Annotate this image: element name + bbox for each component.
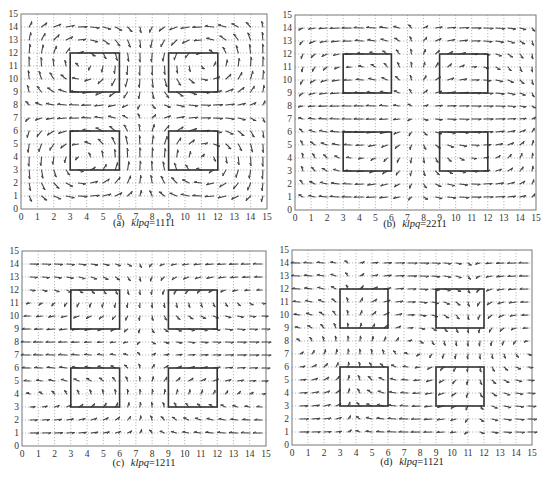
obstacle-rectangle	[168, 368, 217, 407]
vector-arrow	[319, 196, 327, 197]
arrow-head	[129, 162, 130, 164]
arrow-head	[513, 94, 515, 95]
arrow-head	[76, 63, 78, 64]
arrow-head	[218, 330, 220, 331]
y-tick-label: 8	[13, 100, 18, 110]
x-tick-label: 3	[68, 212, 73, 222]
y-tick-label: 3	[14, 402, 19, 412]
arrow-head	[45, 291, 47, 292]
arrow-head	[449, 277, 451, 278]
arrow-head	[459, 264, 461, 265]
arrow-head	[332, 143, 334, 144]
x-tick-label: 1	[306, 448, 311, 458]
x-tick-label: 5	[373, 213, 378, 223]
arrow-head	[153, 136, 154, 138]
arrow-head	[264, 86, 265, 88]
x-tick-label: 1	[309, 213, 314, 223]
arrow-head	[246, 23, 248, 24]
arrow-head	[36, 379, 38, 380]
arrow-head	[190, 390, 191, 392]
x-tick-label: 0	[19, 212, 24, 222]
arrow-head	[85, 366, 87, 367]
arrow-head	[424, 316, 426, 317]
arrow-head	[151, 292, 152, 294]
obstacle-rectangle	[71, 368, 120, 407]
arrow-head	[349, 376, 350, 378]
arrow-head	[509, 420, 511, 421]
arrow-head	[43, 45, 44, 47]
arrow-head	[139, 318, 140, 320]
arrow-head	[453, 133, 455, 134]
vector-arrow	[331, 183, 339, 184]
x-tick-label: 11	[197, 212, 206, 222]
y-tick-label: 6	[14, 363, 19, 373]
arrow-head	[182, 106, 184, 107]
y-tick-label: 3	[284, 401, 289, 411]
y-tick-label: 10	[9, 74, 19, 84]
y-tick-label: 0	[14, 441, 19, 451]
y-tick-label: 7	[14, 350, 19, 360]
arrow-head	[423, 329, 425, 330]
arrow-head	[311, 167, 313, 168]
arrow-head	[229, 148, 231, 149]
arrow-head	[511, 154, 512, 156]
y-tick-label: 9	[284, 323, 289, 333]
arrow-head	[64, 160, 65, 162]
obstacle-rectangle	[168, 290, 217, 329]
arrow-head	[501, 42, 503, 43]
x-tick-label: 14	[511, 448, 521, 458]
x-tick-label: 15	[262, 212, 272, 222]
arrow-head	[153, 377, 154, 379]
arrow-head	[324, 68, 325, 70]
arrow-head	[300, 180, 302, 181]
arrow-head	[150, 430, 152, 431]
x-tick-label: 1	[35, 212, 40, 222]
arrow-head	[240, 391, 241, 393]
arrow-head	[384, 63, 386, 64]
arrow-head	[500, 81, 502, 82]
vector-arrow	[331, 131, 340, 132]
x-tick-label: 4	[357, 213, 362, 223]
arrow-head	[138, 353, 140, 354]
arrow-head	[95, 116, 97, 117]
vector-arrow	[165, 137, 167, 144]
arrow-head	[305, 287, 307, 288]
arrow-head	[410, 161, 411, 163]
arrow-head	[463, 172, 465, 173]
arrow-head	[424, 187, 426, 188]
x-tick-label: 0	[290, 448, 295, 458]
x-tick-label: 13	[499, 213, 509, 223]
arrow-head	[72, 198, 74, 199]
vector-arrow	[58, 104, 66, 105]
arrow-head	[95, 42, 97, 43]
vector-arrow	[496, 28, 505, 29]
arrow-head	[337, 349, 338, 351]
y-tick-label: 15	[280, 245, 290, 255]
arrow-head	[177, 390, 178, 392]
x-tick-label: 12	[212, 449, 222, 459]
x-tick-label: 15	[527, 448, 537, 458]
arrow-head	[366, 417, 368, 418]
x-tick-label: 10	[180, 212, 190, 222]
vector-arrow	[42, 45, 43, 53]
x-tick-label: 2	[51, 212, 56, 222]
arrow-head	[153, 108, 155, 109]
arrow-head	[172, 178, 174, 179]
vector-arrow	[128, 162, 129, 170]
x-tick-label: 5	[370, 448, 375, 458]
x-tick-label: 3	[338, 448, 343, 458]
arrow-head	[108, 116, 110, 117]
arrow-head	[243, 120, 245, 121]
arrow-head	[478, 330, 479, 332]
panel-a-quiver-plot: 0123456789101112131415012345678910111213…	[9, 9, 273, 222]
vector-arrow	[29, 44, 30, 53]
arrow-head	[110, 354, 112, 355]
y-tick-label: 15	[283, 10, 293, 20]
y-tick-label: 5	[13, 139, 18, 149]
x-tick-label: 15	[261, 449, 271, 459]
arrow-head	[369, 78, 371, 79]
arrow-head	[83, 184, 85, 185]
arrow-head	[375, 312, 376, 314]
y-tick-label: 14	[9, 22, 19, 32]
x-tick-label: 11	[467, 213, 476, 223]
